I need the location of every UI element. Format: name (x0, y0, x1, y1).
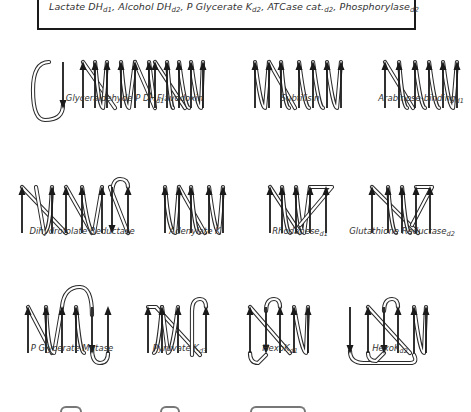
header-entry: ATCase cat.d2 (267, 1, 333, 12)
arrow-up-icon (277, 306, 284, 315)
diagram-caption: Adenylate K (169, 226, 220, 236)
arrow-up-icon (104, 61, 111, 70)
arrow-up-icon (395, 306, 402, 315)
arrow-up-icon (399, 186, 406, 195)
diagram-caption: Dihydrofolate Reductase (29, 226, 134, 236)
header-box: Lactate DHd1, Alcohol DHd2, P Glycerate … (37, 0, 416, 30)
arrow-up-icon (73, 306, 80, 315)
arrow-up-icon (164, 61, 171, 70)
arrow-up-icon (43, 306, 50, 315)
beta-sheet-topology-icon (350, 305, 470, 365)
diagram-caption: P Glycerate Mutase (31, 343, 114, 353)
cropped-diagram-fragment (250, 406, 306, 412)
beta-sheet-topology-icon (385, 60, 471, 120)
arrow-up-icon (92, 61, 99, 70)
diagram-caption: Flavodoxin (157, 93, 203, 103)
diagram-caption: HexoKd2 (372, 343, 408, 355)
arrow-up-icon (188, 186, 195, 195)
arrow-up-icon (278, 61, 285, 70)
beta-sheet-topology-icon (255, 60, 375, 120)
arrow-up-icon (162, 186, 169, 195)
cropped-diagram-fragment (60, 406, 82, 412)
diagram-caption: Glutathione Reductased2 (349, 226, 455, 238)
arrow-up-icon (279, 186, 286, 195)
header-entry: Phosphorylased2 (340, 1, 420, 12)
diagram-caption: Pyruvate Kd3 (153, 343, 207, 355)
cropped-diagram-fragment (160, 406, 180, 412)
arrow-up-icon (203, 306, 210, 315)
arrow-up-icon (220, 186, 227, 195)
diagram-caption: HexoKd1 (262, 343, 298, 355)
diagram-caption: Glyceraldehyde P DHd1 (66, 93, 164, 105)
header-entry: Alcohol DHd2 (118, 1, 180, 12)
diagram-caption: Subtilisin (281, 93, 320, 103)
diagram-caption: Arabinose-bindingd1 (378, 93, 464, 105)
arrow-up-icon (305, 306, 312, 315)
header-domain-list: Lactate DHd1, Alcohol DHd2, P Glycerate … (49, 1, 419, 14)
arrow-up-icon (293, 186, 300, 195)
arrow-up-icon (454, 61, 461, 70)
arrow-up-icon (423, 306, 430, 315)
arrow-up-icon (125, 186, 132, 195)
arrow-up-icon (105, 306, 112, 315)
arrow-up-icon (49, 186, 56, 195)
beta-sheet-topology-icon (28, 305, 148, 365)
arrow-up-icon (396, 61, 403, 70)
arrow-up-icon (200, 61, 207, 70)
diagram-caption: Rhodanesed1 (272, 226, 328, 238)
arrow-up-icon (385, 186, 392, 195)
header-entry: P Glycerate Kd2 (187, 1, 261, 12)
arrow-up-icon (338, 61, 345, 70)
header-entry: Lactate DHd1 (49, 1, 112, 12)
beta-sheet-topology-icon (22, 185, 142, 245)
arrow-up-icon (118, 61, 125, 70)
